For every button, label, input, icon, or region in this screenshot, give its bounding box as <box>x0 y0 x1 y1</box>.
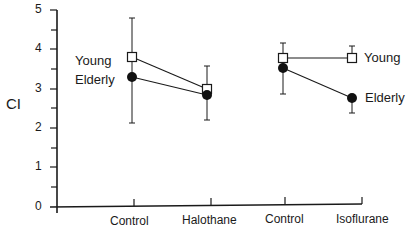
chart-canvas <box>0 0 409 235</box>
legend-elderly-left: Elderly <box>75 72 115 87</box>
y-ticks <box>50 10 57 187</box>
x-tick-control-1: Control <box>110 214 149 228</box>
y-tick-2: 2 <box>35 120 42 134</box>
legend-young-left: Young <box>75 53 111 68</box>
legend-young-right: Young <box>364 50 400 65</box>
elderly-isoflurane-line <box>283 68 352 98</box>
y-tick-4: 4 <box>35 41 42 55</box>
x-tick-control-2: Control <box>265 212 304 226</box>
elderly-halothane-line <box>132 77 207 95</box>
x-axis <box>50 204 362 207</box>
y-tick-1: 1 <box>35 159 42 173</box>
x-tick-isoflurane: Isoflurane <box>336 212 389 226</box>
y-tick-5: 5 <box>35 2 42 16</box>
legend-elderly-right: Elderly <box>365 90 405 105</box>
young-markers <box>128 53 357 94</box>
y-tick-0: 0 <box>35 199 42 213</box>
x-tick-halothane: Halothane <box>182 213 237 227</box>
y-tick-3: 3 <box>35 81 42 95</box>
young-halothane-line <box>132 57 207 89</box>
y-axis-label: CI <box>6 95 21 112</box>
